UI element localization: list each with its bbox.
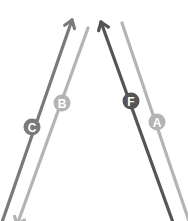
- lane-label-text: F: [127, 95, 134, 109]
- lane-badge: B: [54, 95, 71, 112]
- lane-a: A: [122, 23, 188, 221]
- lane-label-text: B: [58, 97, 67, 111]
- lane-label-text: C: [28, 121, 37, 135]
- lane-badge: C: [24, 119, 41, 136]
- lane-diagram: CBFA: [0, 0, 188, 221]
- lane-badge: F: [123, 93, 140, 110]
- lanes-group: CBFA: [0, 20, 188, 221]
- lane-badge: A: [149, 114, 166, 131]
- lane-c: C: [0, 20, 75, 221]
- lane-label-text: A: [153, 116, 162, 130]
